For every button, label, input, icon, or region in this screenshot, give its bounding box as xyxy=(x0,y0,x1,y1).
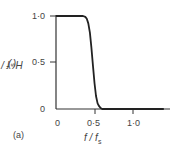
y-axis-label-text: H( f / f xyxy=(0,60,23,71)
y-axis-label-close: ) xyxy=(7,60,10,71)
y-tick-label-05: 0·5 xyxy=(32,58,45,67)
y-tick-label-0: 0 xyxy=(40,105,45,114)
response-curve xyxy=(56,16,164,109)
panel-label: (a) xyxy=(13,130,24,140)
y-tick-label-1: 1·0 xyxy=(32,12,45,21)
chart-plot-area xyxy=(0,0,180,152)
x-tick-label-1: 1·0 xyxy=(127,119,140,128)
x-tick-label-0: 0 xyxy=(55,119,60,128)
x-axis-label-text: f / f xyxy=(84,132,98,143)
x-axis-label: f / fs xyxy=(84,132,101,145)
x-tick-label-05: 0·5 xyxy=(87,119,100,128)
y-axis-label: H( f / fs) xyxy=(2,40,16,90)
x-axis-label-sub: s xyxy=(98,138,102,145)
